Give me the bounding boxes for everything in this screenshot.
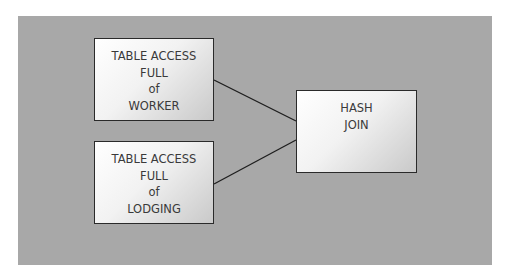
node-label-line: WORKER <box>95 98 213 115</box>
node-label-line: of <box>95 184 213 201</box>
node-label-line: of <box>95 81 213 98</box>
node-label-line: TABLE ACCESS <box>95 48 213 65</box>
node-table-access-full-worker: TABLE ACCESS FULL of WORKER <box>94 38 214 121</box>
node-label-line: JOIN <box>297 117 416 134</box>
node-table-access-full-lodging: TABLE ACCESS FULL of LODGING <box>94 141 214 224</box>
node-label-line: HASH <box>297 100 416 117</box>
node-label-line: TABLE ACCESS <box>95 151 213 168</box>
diagram-panel <box>18 16 492 265</box>
node-hash-join: HASH JOIN <box>296 90 417 173</box>
node-label-line: LODGING <box>95 201 213 218</box>
node-label-line: FULL <box>95 65 213 82</box>
node-label-line: FULL <box>95 168 213 185</box>
